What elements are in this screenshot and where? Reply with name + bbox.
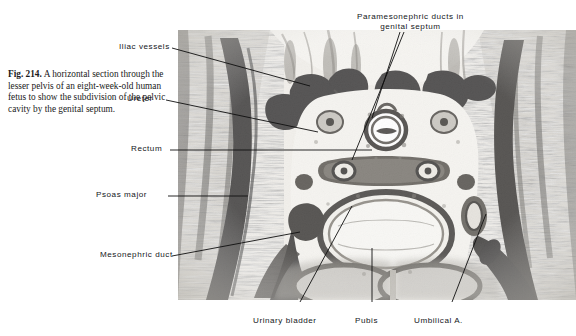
figure-caption: Fig. 214. A horizontal section through t… [8, 69, 170, 115]
figure-number: Fig. 214. [8, 69, 42, 79]
figure-page: Fig. 214. A horizontal section through t… [0, 0, 576, 336]
label-rectum: Rectum [131, 144, 162, 153]
label-paramesonephric-ducts: Paramesonephric ducts in genital septum [357, 12, 464, 32]
label-pubis: Pubis [355, 316, 378, 325]
label-paramesonephric-line2: genital septum [357, 22, 464, 32]
photomicrograph-image [178, 30, 576, 300]
label-mesonephric-duct: Mesonephric duct [100, 250, 173, 259]
label-umbilical-artery: Umbilical A. [414, 316, 463, 325]
label-urinary-bladder: Urinary bladder [253, 316, 317, 325]
label-ureter: Ureter [127, 94, 153, 103]
label-paramesonephric-line1: Paramesonephric ducts in [357, 12, 464, 22]
photomicrograph [178, 30, 576, 300]
label-iliac-vessels: Iliac vessels [119, 42, 170, 51]
label-psoas-major: Psoas major [96, 190, 147, 199]
